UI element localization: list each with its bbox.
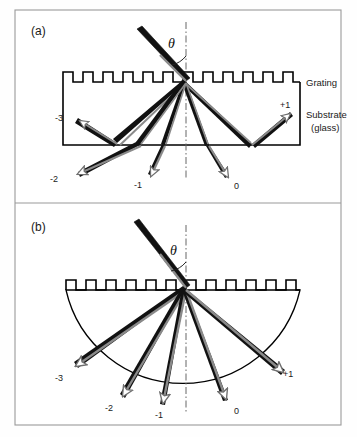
grating-diffraction-diagram: (a) θ — [0, 0, 357, 437]
panel-b-label: (b) — [31, 220, 46, 234]
panel-a-label: (a) — [31, 24, 46, 38]
order-label-a-0: 0 — [234, 181, 239, 191]
grating-label: Grating — [306, 77, 337, 88]
order-label-b-m3: -3 — [55, 373, 63, 383]
order-label-b-m2: -2 — [105, 403, 113, 413]
order-label-b-p1: +1 — [283, 369, 293, 379]
theta-symbol-a: θ — [168, 36, 175, 51]
theta-symbol-b: θ — [170, 243, 177, 258]
order-label-a-m1: -1 — [134, 180, 142, 190]
order-label-b-0: 0 — [234, 406, 239, 416]
order-label-b-m1: -1 — [155, 410, 163, 420]
substrate-label-line2: (glass) — [311, 122, 340, 133]
order-label-a-p1: +1 — [280, 100, 290, 110]
order-label-a-m3: -3 — [55, 113, 63, 123]
substrate-label-line1: Substrate — [306, 109, 347, 120]
order-label-a-m2: -2 — [50, 174, 58, 184]
figure-root: (a) θ — [0, 0, 357, 437]
